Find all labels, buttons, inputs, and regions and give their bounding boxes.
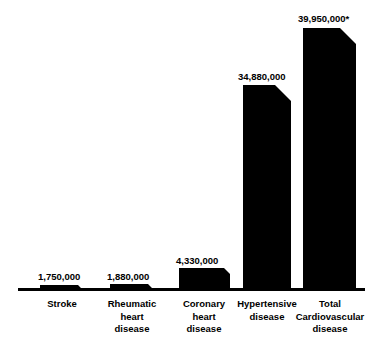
- bar-total-cardiovascular-disease: [303, 28, 356, 289]
- chart-plot-area: 1,750,000 1,880,000 4,330,000 34,880,000…: [0, 0, 381, 345]
- bar-coronary-heart-disease: [179, 268, 230, 289]
- category-label-rheumatic-heart-disease: Rheumatic heart disease: [92, 298, 172, 336]
- category-label-total-cardiovascular-disease: Total Cardiovascular disease: [288, 298, 372, 336]
- cardiovascular-bar-chart: 1,750,000 1,880,000 4,330,000 34,880,000…: [0, 0, 381, 345]
- value-label-total-cardiovascular-disease: 39,950,000*: [298, 14, 349, 24]
- value-label-hypertensive-disease: 34,880,000: [238, 72, 286, 82]
- bars-layer: [0, 0, 381, 345]
- value-label-rheumatic-heart-disease: 1,880,000: [107, 272, 149, 282]
- category-label-stroke: Stroke: [22, 298, 102, 311]
- baseline-axis: [18, 288, 365, 291]
- bar-hypertensive-disease: [243, 85, 291, 289]
- value-label-stroke: 1,750,000: [38, 272, 80, 282]
- value-label-coronary-heart-disease: 4,330,000: [176, 256, 218, 266]
